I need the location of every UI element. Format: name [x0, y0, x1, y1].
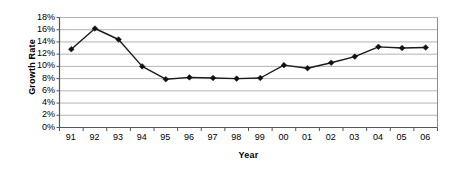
axis-ticks	[57, 18, 438, 132]
x-tick-label: 99	[255, 133, 265, 142]
x-tick-label: 93	[113, 133, 123, 142]
data-point-00	[281, 62, 287, 68]
gridlines	[60, 18, 438, 116]
data-point-97	[210, 75, 216, 81]
x-tick-label: 05	[397, 133, 407, 142]
x-tick-label: 92	[89, 133, 99, 142]
x-tick-label: 03	[349, 133, 359, 142]
data-point-98	[234, 76, 240, 82]
x-tick-label: 97	[208, 133, 218, 142]
x-tick-label: 95	[160, 133, 170, 142]
x-axis-title: Year	[59, 150, 438, 160]
data-point-06	[423, 45, 429, 51]
data-point-05	[399, 45, 405, 51]
plot-frame	[60, 18, 438, 128]
x-tick-label: 94	[137, 133, 147, 142]
x-tick-label: 96	[184, 133, 194, 142]
data-point-99	[258, 75, 264, 81]
data-point-95	[163, 76, 169, 82]
x-tick-label: 98	[231, 133, 241, 142]
growth-rate-line-chart: Growth Rate 0%2%4%6%8%10%12%14%16%18% 91…	[0, 0, 458, 173]
x-tick-label: 02	[326, 133, 336, 142]
plot-area	[0, 0, 458, 173]
x-tick-label: 91	[66, 133, 76, 142]
data-point-04	[376, 44, 382, 50]
x-tick-label: 06	[420, 133, 430, 142]
data-point-96	[187, 75, 193, 81]
x-tick-label: 04	[373, 133, 383, 142]
x-axis-tick-labels: 91929394959697989900010203040506	[59, 133, 438, 147]
x-tick-label: 01	[302, 133, 312, 142]
x-tick-label: 00	[278, 133, 288, 142]
data-point-02	[328, 60, 334, 66]
